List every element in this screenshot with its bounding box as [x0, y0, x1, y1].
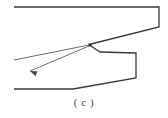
figure-caption: ( c ) [0, 96, 168, 108]
notch-vertex-marker [89, 44, 92, 47]
figure-container: ( c ) [0, 0, 168, 118]
